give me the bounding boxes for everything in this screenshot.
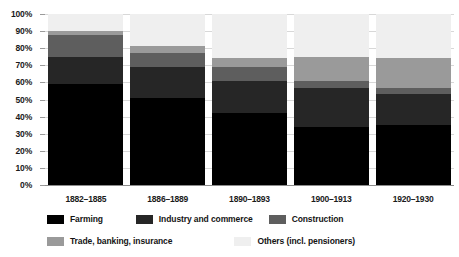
x-axis-label: 1886–1889: [147, 194, 188, 204]
bar-segment[interactable]: [212, 81, 287, 113]
bar-segment[interactable]: [48, 35, 123, 57]
bar-segment[interactable]: [294, 81, 369, 88]
bar-column[interactable]: [130, 14, 205, 185]
bar-segment[interactable]: [212, 58, 287, 67]
legend-swatch-trade-banking-insurance: [47, 237, 64, 246]
legend-swatch-construction: [269, 215, 286, 224]
bar-segment[interactable]: [212, 67, 287, 81]
bar-slot: [45, 14, 127, 185]
y-tick-label: 0%: [20, 180, 32, 190]
bar-slot: [372, 14, 454, 185]
y-tick-label: 100%: [11, 9, 32, 19]
bar-segment[interactable]: [376, 88, 451, 95]
legend-label-others: Others (incl. pensioners): [257, 236, 355, 246]
bar-segment[interactable]: [130, 98, 205, 185]
bar-column[interactable]: [48, 14, 123, 185]
legend-item-industry-and-commerce[interactable]: Industry and commerce: [136, 214, 253, 224]
legend-item-construction[interactable]: Construction: [269, 214, 344, 224]
bar-segment[interactable]: [376, 94, 451, 125]
legend-swatch-industry-and-commerce: [136, 215, 153, 224]
legend-item-trade-banking-insurance[interactable]: Trade, banking, insurance: [47, 236, 172, 246]
bar-segment[interactable]: [130, 14, 205, 46]
y-tick-label: 50%: [16, 95, 32, 105]
y-tick-label: 70%: [16, 60, 32, 70]
x-axis-label: 1900–1913: [311, 194, 352, 204]
plot-wrapper: 100% 90% 80% 70% 60% 50% 40% 30% 20% 10%…: [0, 0, 459, 200]
bar-column[interactable]: [212, 14, 287, 185]
x-label-slot: 1882–1885: [45, 188, 127, 204]
bar-segment[interactable]: [212, 113, 287, 185]
bar-segment[interactable]: [294, 14, 369, 57]
legend-swatch-others: [234, 237, 251, 246]
bar-column[interactable]: [294, 14, 369, 185]
x-label-slot: 1900–1913: [290, 188, 372, 204]
bar-segment[interactable]: [130, 67, 205, 98]
bar-column[interactable]: [376, 14, 451, 185]
y-tick-label: 10%: [16, 163, 32, 173]
bar-slot: [127, 14, 209, 185]
y-tick-label: 60%: [16, 77, 32, 87]
bar-slot: [209, 14, 291, 185]
x-axis-label: 1890–1893: [229, 194, 270, 204]
gridline: [45, 185, 454, 186]
x-label-slot: 1920–1930: [372, 188, 454, 204]
y-tick-label: 20%: [16, 146, 32, 156]
bar-segment[interactable]: [212, 14, 287, 58]
legend-item-farming[interactable]: Farming: [47, 214, 103, 224]
stacked-bar-chart: 100% 90% 80% 70% 60% 50% 40% 30% 20% 10%…: [0, 0, 459, 257]
bar-segment[interactable]: [48, 14, 123, 31]
y-axis: 100% 90% 80% 70% 60% 50% 40% 30% 20% 10%…: [0, 0, 40, 200]
x-label-slot: 1886–1889: [127, 188, 209, 204]
x-axis-label: 1920–1930: [393, 194, 434, 204]
bar-segment[interactable]: [376, 125, 451, 185]
bar-segment[interactable]: [130, 53, 205, 67]
y-tick-label: 30%: [16, 129, 32, 139]
y-tick-label: 40%: [16, 112, 32, 122]
legend-swatch-farming: [47, 215, 64, 224]
y-tick-label: 90%: [16, 26, 32, 36]
legend-item-others[interactable]: Others (incl. pensioners): [234, 236, 355, 246]
x-label-slot: 1890–1893: [209, 188, 291, 204]
legend-label-industry-and-commerce: Industry and commerce: [159, 214, 253, 224]
y-tick-label: 80%: [16, 43, 32, 53]
bar-segment[interactable]: [294, 57, 369, 81]
bar-segment[interactable]: [130, 46, 205, 53]
x-axis: 1882–18851886–18891890–18931900–19131920…: [45, 188, 454, 204]
bar-segment[interactable]: [294, 88, 369, 127]
legend-label-farming: Farming: [70, 214, 103, 224]
legend-row-2: Trade, banking, insurance Others (incl. …: [47, 234, 355, 248]
legend-label-trade-banking-insurance: Trade, banking, insurance: [70, 236, 172, 246]
bar-segment[interactable]: [294, 127, 369, 185]
bar-segment[interactable]: [48, 84, 123, 185]
bar-group: [45, 14, 454, 185]
chart-legend: Farming Industry and commerce Constructi…: [0, 208, 459, 257]
bar-slot: [290, 14, 372, 185]
legend-row-1: Farming Industry and commerce Constructi…: [47, 212, 343, 226]
x-axis-label: 1882–1885: [66, 194, 107, 204]
bar-segment[interactable]: [376, 14, 451, 58]
bar-segment[interactable]: [376, 58, 451, 87]
bar-segment[interactable]: [48, 57, 123, 84]
legend-label-construction: Construction: [292, 214, 344, 224]
plot-area: [45, 14, 454, 185]
